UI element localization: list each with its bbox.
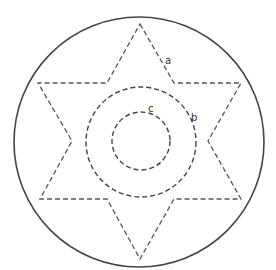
inner-dashed-circle	[112, 112, 170, 170]
label-b: b	[191, 112, 197, 123]
label-a: a	[165, 55, 171, 66]
six-pointed-star	[38, 24, 241, 259]
label-c: c	[148, 103, 154, 114]
diagram-canvas: a b c	[0, 0, 276, 270]
outer-circle	[14, 17, 264, 267]
middle-dashed-circle	[86, 87, 196, 197]
